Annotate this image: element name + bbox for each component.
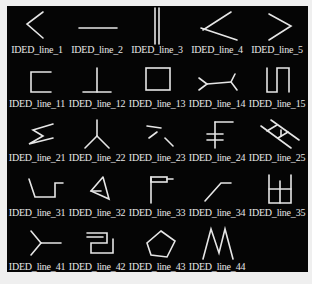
shape-label: IDED_line_22 (63, 152, 131, 163)
ladder-icon (257, 116, 297, 152)
shape-label: IDED_line_25 (243, 152, 311, 163)
line-shapes-panel: IDED_line_1 IDED_line_2 IDED_line_3 IDED… (7, 6, 308, 272)
bracket-open-right-icon (17, 62, 57, 98)
flag-icon (137, 171, 177, 207)
chevron-right-icon (257, 8, 297, 44)
shape-label: IDED_line_3 (123, 44, 191, 55)
shape-cell: IDED_line_22 (67, 114, 127, 167)
step-notch-icon (17, 171, 57, 207)
shape-cell: IDED_line_5 (247, 6, 307, 59)
shape-cell: IDED_line_43 (127, 223, 187, 276)
fork-left-icon (17, 225, 57, 261)
shape-cell: IDED_line_33 (127, 169, 187, 222)
shape-cell: IDED_line_24 (187, 114, 247, 167)
y-junction-icon (77, 116, 117, 152)
shape-cell: IDED_line_35 (247, 169, 307, 222)
shape-cell: IDED_line_11 (7, 60, 67, 113)
arrowhead-icon (77, 171, 117, 207)
shape-cell: IDED_line_15 (247, 60, 307, 113)
shape-cell: IDED_line_31 (7, 169, 67, 222)
crossed-lines-icon (197, 8, 237, 44)
shape-label: IDED_line_1 (3, 44, 71, 55)
double-fork-icon (197, 62, 237, 98)
shape-label: IDED_line_34 (183, 207, 251, 218)
shape-label: IDED_line_23 (123, 152, 191, 163)
shape-label: IDED_line_44 (183, 261, 251, 272)
shape-cell: IDED_line_2 (67, 6, 127, 59)
shape-cell: IDED_line_44 (187, 223, 247, 276)
m-shape-icon (197, 225, 237, 261)
shape-label: IDED_line_43 (123, 261, 191, 272)
nested-brackets-icon (77, 225, 117, 261)
shape-label: IDED_line_12 (63, 98, 131, 109)
shape-cell: IDED_line_34 (187, 169, 247, 222)
shape-label: IDED_line_31 (3, 207, 71, 218)
shape-label: IDED_line_41 (3, 261, 71, 272)
shape-label: IDED_line_5 (243, 44, 311, 55)
shape-label: IDED_line_42 (63, 261, 131, 272)
bent-line-icon (197, 171, 237, 207)
shape-label: IDED_line_35 (243, 207, 311, 218)
shape-cell: IDED_line_32 (67, 169, 127, 222)
square-wave-icon (257, 62, 297, 98)
rectangle-icon (137, 62, 177, 98)
shape-cell: IDED_line_41 (7, 223, 67, 276)
shape-cell: IDED_line_42 (67, 223, 127, 276)
shape-cell: IDED_line_23 (127, 114, 187, 167)
shape-cell: IDED_line_3 (127, 6, 187, 59)
shape-label: IDED_line_33 (123, 207, 191, 218)
shape-cell: IDED_line_4 (187, 6, 247, 59)
pentagon-icon (137, 225, 177, 261)
shape-cell: IDED_line_12 (67, 60, 127, 113)
shape-cell: IDED_line_1 (7, 6, 67, 59)
shape-label: IDED_line_14 (183, 98, 251, 109)
sigma-zigzag-icon (17, 116, 57, 152)
horizontal-line-icon (77, 8, 117, 44)
shape-label: IDED_line_15 (243, 98, 311, 109)
shape-label: IDED_line_11 (3, 98, 71, 109)
shape-cell: IDED_line_21 (7, 114, 67, 167)
zigzag-left-open-icon (17, 8, 57, 44)
shape-cell: IDED_line_13 (127, 60, 187, 113)
shape-label: IDED_line_4 (183, 44, 251, 55)
shape-label: IDED_line_13 (123, 98, 191, 109)
shape-label: IDED_line_2 (63, 44, 131, 55)
shape-label: IDED_line_21 (3, 152, 71, 163)
shape-cell: IDED_line_14 (187, 60, 247, 113)
shape-label: IDED_line_32 (63, 207, 131, 218)
shape-cell: IDED_line_25 (247, 114, 307, 167)
window-grid-icon (257, 171, 297, 207)
stacked-bars-icon (197, 116, 237, 152)
scattered-strokes-icon (137, 116, 177, 152)
double-vertical-line-icon (137, 8, 177, 44)
inverted-t-icon (77, 62, 117, 98)
shape-label: IDED_line_24 (183, 152, 251, 163)
